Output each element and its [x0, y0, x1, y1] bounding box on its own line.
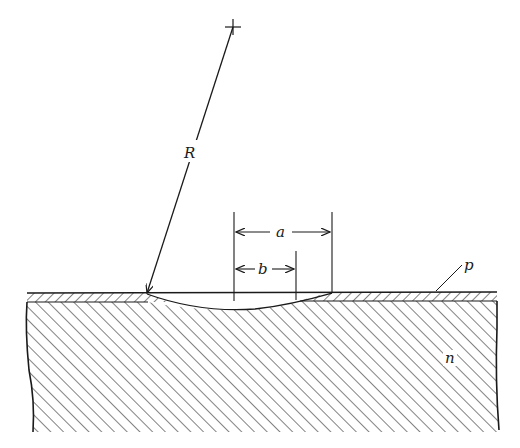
p-layer-callout: p: [436, 256, 474, 291]
dimension-a-label: a: [276, 223, 285, 241]
junction-cross-section-diagram: R a b p n: [0, 0, 520, 448]
dimension-b-label: b: [258, 260, 268, 278]
surface-line: [27, 292, 497, 293]
p-layer-label: p: [464, 256, 474, 274]
n-substrate: [26, 301, 499, 432]
radius-label: R: [183, 144, 195, 162]
n-substrate-label: n: [445, 349, 455, 367]
dimension-a: a: [234, 212, 332, 301]
radius-arrow: R: [147, 19, 241, 293]
